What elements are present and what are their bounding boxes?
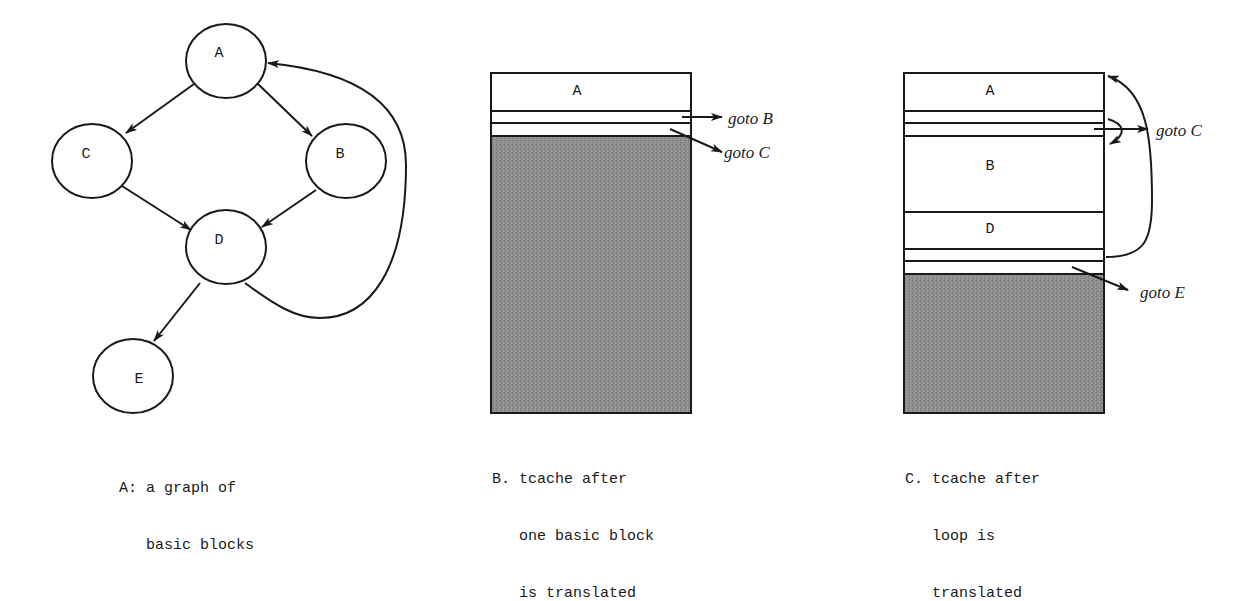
node-c-label: C [81, 146, 90, 163]
exit-label-goto-e: goto E [1140, 283, 1185, 302]
panel-b-caption-line1: B. tcache after [492, 470, 654, 489]
exit-label-goto-c: goto C [1156, 121, 1202, 140]
edge-c-to-d [122, 186, 191, 230]
edge-a-to-c [126, 84, 194, 133]
node-e-circle [93, 339, 173, 413]
tcache-free-space [491, 136, 691, 413]
exit-label-goto-b: goto B [728, 109, 773, 128]
panel-c-caption-line3: translated [905, 584, 1040, 601]
panel-a-graph [52, 24, 406, 413]
chain-arrow-d-to-a [1106, 76, 1152, 257]
node-d-circle [186, 210, 266, 284]
panel-b-tcache: A goto B goto C [491, 73, 773, 413]
node-c-circle [52, 124, 132, 198]
panel-b-caption-line3: is translated [492, 584, 654, 601]
panel-a-caption: A: a graph of basic blocks [119, 441, 254, 574]
node-b-label: B [335, 146, 344, 163]
node-d-label: D [214, 232, 223, 249]
panel-c-caption-line1: C. tcache after [905, 470, 1040, 489]
panel-a-caption-line2: basic blocks [119, 536, 254, 555]
chain-arrow-into-b [1108, 119, 1122, 144]
block-d-label: D [985, 221, 994, 238]
panel-c-caption: C. tcache after loop is translated [905, 432, 1040, 601]
panel-b-caption: B. tcache after one basic block is trans… [492, 432, 654, 601]
exit-label-goto-c: goto C [724, 143, 770, 162]
edge-d-to-e [154, 283, 200, 341]
edge-a-to-b [258, 84, 312, 136]
block-a-label: A [572, 83, 581, 100]
panel-a-caption-line1: A: a graph of [119, 479, 254, 498]
panel-c-tcache: A B D goto C goto E [904, 73, 1202, 413]
node-a-label: A [214, 45, 223, 62]
node-e-label: E [134, 371, 143, 388]
node-a-circle [186, 24, 266, 98]
block-a-label: A [985, 83, 994, 100]
node-b-circle [306, 124, 386, 198]
panel-b-caption-line2: one basic block [492, 527, 654, 546]
block-b-label: B [985, 158, 994, 175]
panel-c-caption-line2: loop is [905, 527, 1040, 546]
tcache-free-space [904, 274, 1104, 413]
edge-b-to-d [262, 190, 316, 227]
